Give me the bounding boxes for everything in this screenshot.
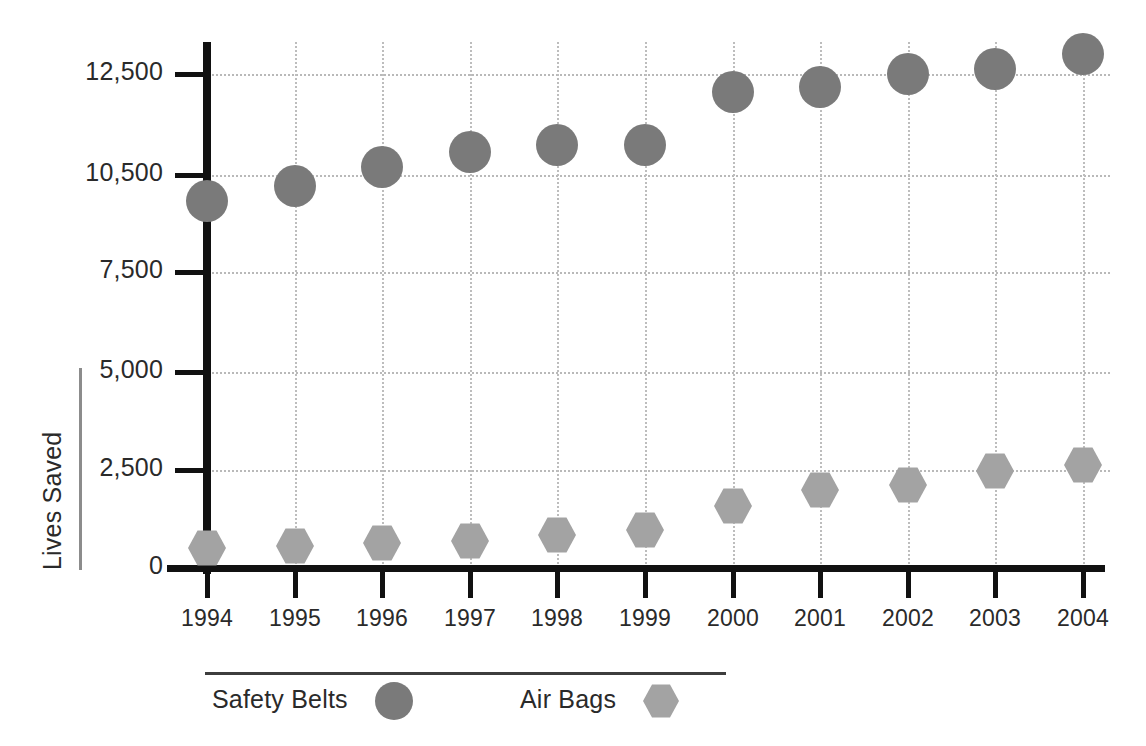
data-point-air-bags-2003 [976, 452, 1014, 490]
y-tick-7,500 [175, 270, 207, 275]
gridline-horizontal-10,500 [207, 175, 1110, 177]
data-point-safety-belts-1999 [624, 124, 666, 166]
gridline-horizontal-5,000 [207, 372, 1110, 374]
x-tick-2001 [818, 572, 823, 598]
x-tick-label-2004: 2004 [1023, 605, 1143, 632]
y-tick-0 [175, 566, 207, 571]
legend-separator [205, 672, 726, 675]
data-point-air-bags-2001 [801, 471, 839, 509]
y-tick-5,000 [175, 370, 207, 375]
data-point-safety-belts-2003 [974, 48, 1016, 90]
x-tick-1996 [380, 572, 385, 598]
chart-container: 02,5005,0007,50010,50012,500199419951996… [0, 0, 1146, 746]
data-point-safety-belts-1994 [186, 180, 228, 222]
gridline-vertical-1998 [557, 42, 559, 568]
x-axis-line [167, 565, 1105, 572]
gridline-vertical-2003 [995, 42, 997, 568]
y-tick-label-7,500: 7,500 [0, 255, 163, 284]
gridline-vertical-2004 [1083, 42, 1085, 568]
data-point-air-bags-1996 [363, 524, 401, 562]
legend-label-air-bags[interactable]: Air Bags [520, 685, 616, 714]
data-point-safety-belts-2002 [887, 53, 929, 95]
data-point-safety-belts-2000 [712, 71, 754, 113]
gridline-horizontal-7,500 [207, 272, 1110, 274]
data-point-air-bags-2004 [1064, 446, 1102, 484]
x-tick-2003 [993, 572, 998, 598]
data-point-safety-belts-1998 [536, 124, 578, 166]
gridline-horizontal-2,500 [207, 470, 1110, 472]
x-tick-2000 [731, 572, 736, 598]
x-tick-2002 [906, 572, 911, 598]
plot-area: 02,5005,0007,50010,50012,500199419951996… [0, 0, 1146, 746]
y-tick-10,500 [175, 173, 207, 178]
data-point-air-bags-1997 [451, 522, 489, 560]
data-point-safety-belts-2004 [1062, 33, 1104, 75]
data-point-air-bags-2000 [714, 487, 752, 525]
x-tick-2004 [1081, 572, 1086, 598]
x-tick-1999 [643, 572, 648, 598]
legend-label-safety-belts[interactable]: Safety Belts [212, 685, 348, 714]
data-point-safety-belts-1997 [449, 131, 491, 173]
data-point-air-bags-1995 [276, 527, 314, 565]
data-point-safety-belts-1996 [361, 146, 403, 188]
y-tick-12,500 [175, 72, 207, 77]
gridline-vertical-1997 [470, 42, 472, 568]
data-point-air-bags-1999 [626, 511, 664, 549]
x-tick-1994 [205, 572, 210, 598]
gridline-vertical-1995 [295, 42, 297, 568]
y-tick-label-12,500: 12,500 [0, 57, 163, 86]
y-tick-label-10,500: 10,500 [0, 158, 163, 187]
gridline-vertical-1999 [645, 42, 647, 568]
y-axis-title: Lives Saved [38, 432, 67, 570]
legend-swatch-safety-belts [375, 682, 413, 720]
x-tick-1995 [293, 572, 298, 598]
x-tick-1997 [468, 572, 473, 598]
x-tick-1998 [555, 572, 560, 598]
data-point-safety-belts-2001 [799, 66, 841, 108]
y-tick-2,500 [175, 468, 207, 473]
legend-swatch-air-bags [643, 683, 679, 719]
data-point-air-bags-1994 [188, 529, 226, 567]
y-axis-title-rule [79, 368, 82, 570]
data-point-air-bags-1998 [538, 516, 576, 554]
data-point-safety-belts-1995 [274, 165, 316, 207]
gridline-vertical-1996 [382, 42, 384, 568]
y-axis-line [203, 42, 211, 574]
